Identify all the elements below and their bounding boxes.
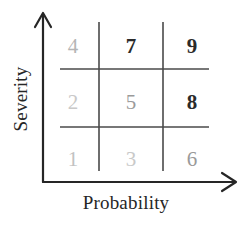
x-axis-label: Probability	[46, 192, 206, 214]
matrix-cell-r1c2: 8	[169, 92, 215, 113]
matrix-cell-r1c1: 5	[108, 92, 154, 113]
risk-matrix-figure: 4 7 9 2 5 8 1 3 6 Severity Probability	[0, 0, 245, 228]
matrix-cell-r2c0: 1	[50, 149, 96, 170]
matrix-cell-r0c2: 9	[169, 36, 215, 57]
matrix-cell-r2c2: 6	[169, 149, 215, 170]
y-axis-label: Severity	[10, 49, 32, 149]
matrix-cell-r1c0: 2	[50, 92, 96, 113]
matrix-cell-r2c1: 3	[108, 149, 154, 170]
matrix-cell-r0c0: 4	[50, 36, 96, 57]
matrix-cell-r0c1: 7	[108, 36, 154, 57]
